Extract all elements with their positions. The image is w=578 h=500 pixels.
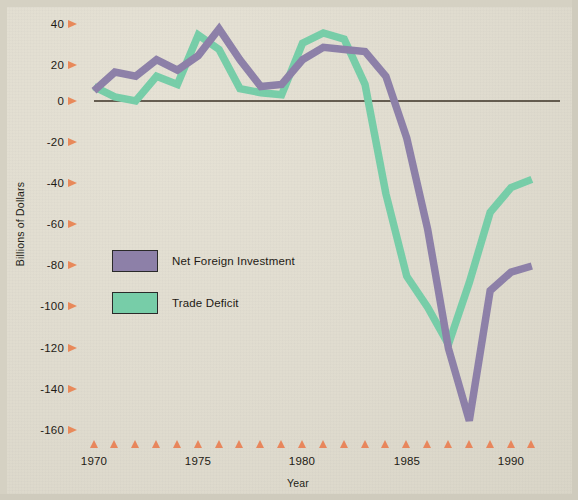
x-tick-label-1970: 1970 bbox=[64, 455, 124, 467]
x-tick-arrow-1981 bbox=[319, 440, 327, 448]
x-tick-arrow-1984 bbox=[381, 440, 389, 448]
y-tick-arrow-neg140 bbox=[68, 385, 77, 393]
legend-label-net-foreign-investment: Net Foreign Investment bbox=[172, 255, 295, 267]
y-tick-arrow-neg40 bbox=[68, 179, 77, 187]
y-tick-label-neg120: -120 bbox=[20, 342, 64, 354]
y-tick-arrow-neg80 bbox=[68, 261, 77, 269]
frame-border-top bbox=[0, 0, 578, 7]
x-tick-label-1985: 1985 bbox=[377, 455, 437, 467]
x-tick-arrow-1988 bbox=[465, 440, 473, 448]
x-tick-arrow-1990 bbox=[507, 440, 515, 448]
x-tick-arrow-1982 bbox=[340, 440, 348, 448]
x-tick-arrow-1974 bbox=[173, 440, 181, 448]
plot-area bbox=[0, 0, 578, 500]
x-tick-arrow-1971 bbox=[110, 440, 118, 448]
y-tick-arrow-neg120 bbox=[68, 344, 77, 352]
x-tick-arrow-1975 bbox=[194, 440, 202, 448]
x-tick-arrow-1983 bbox=[361, 440, 369, 448]
x-tick-label-1990: 1990 bbox=[481, 455, 541, 467]
y-tick-arrow-neg100 bbox=[68, 302, 77, 310]
x-tick-arrow-1987 bbox=[444, 440, 452, 448]
y-tick-arrow-0 bbox=[68, 97, 77, 105]
y-tick-arrow-neg20 bbox=[68, 138, 77, 146]
y-tick-label-neg80: -80 bbox=[20, 259, 64, 271]
x-tick-arrow-1976 bbox=[215, 440, 223, 448]
y-tick-label-20: 20 bbox=[20, 59, 64, 71]
y-tick-label-40: 40 bbox=[20, 18, 64, 30]
series-line-net-foreign-investment bbox=[94, 29, 532, 421]
y-tick-arrow-40 bbox=[68, 20, 77, 28]
x-tick-arrow-1989 bbox=[486, 440, 494, 448]
legend-swatch-net-foreign-investment bbox=[112, 250, 158, 272]
y-tick-arrow-20 bbox=[68, 61, 77, 69]
y-tick-arrow-neg160 bbox=[68, 426, 77, 434]
x-tick-arrow-1972 bbox=[131, 440, 139, 448]
x-tick-arrow-1970 bbox=[90, 440, 98, 448]
x-tick-arrow-1977 bbox=[235, 440, 243, 448]
y-tick-label-neg140: -140 bbox=[20, 383, 64, 395]
x-tick-arrow-1991 bbox=[527, 440, 535, 448]
x-tick-arrow-1980 bbox=[298, 440, 306, 448]
y-tick-arrow-neg60 bbox=[68, 220, 77, 228]
frame-border-bottom bbox=[0, 494, 578, 500]
x-tick-arrow-1979 bbox=[277, 440, 285, 448]
legend-swatch-trade-deficit bbox=[112, 292, 158, 314]
x-tick-label-1980: 1980 bbox=[272, 455, 332, 467]
series-line-trade-deficit bbox=[94, 33, 532, 344]
x-tick-arrow-1973 bbox=[152, 440, 160, 448]
y-tick-label-0: 0 bbox=[20, 95, 64, 107]
x-tick-arrow-1985 bbox=[402, 440, 410, 448]
y-tick-label-neg160: -160 bbox=[20, 424, 64, 436]
x-tick-arrow-1986 bbox=[423, 440, 431, 448]
legend-label-trade-deficit: Trade Deficit bbox=[172, 297, 239, 309]
y-tick-label-neg60: -60 bbox=[20, 218, 64, 230]
y-tick-label-neg100: -100 bbox=[20, 300, 64, 312]
frame-border-left bbox=[0, 0, 7, 500]
x-axis-title: Year bbox=[238, 477, 358, 489]
y-tick-label-neg40: -40 bbox=[20, 177, 64, 189]
x-tick-label-1975: 1975 bbox=[168, 455, 228, 467]
x-tick-arrow-1978 bbox=[256, 440, 264, 448]
frame-border-right bbox=[572, 0, 578, 500]
y-tick-label-neg20: -20 bbox=[20, 136, 64, 148]
chart-figure: Billions of Dollars 40 20 0 -20 -40 -60 … bbox=[0, 0, 578, 500]
